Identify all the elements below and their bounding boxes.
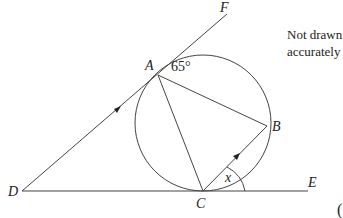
note-line-1: Not drawn (287, 26, 342, 43)
not-drawn-accurately-note: Not drawn accurately (287, 26, 342, 60)
label-D: D (7, 184, 18, 199)
note-line-2: accurately (287, 43, 342, 60)
trailing-parenthesis: ( (337, 201, 342, 218)
label-C: C (196, 196, 206, 211)
angle-label-x: x (224, 170, 232, 185)
label-A: A (144, 58, 154, 73)
label-B: B (272, 119, 281, 134)
chord-CB (203, 126, 267, 191)
label-F: F (219, 0, 229, 15)
angle-label-65: 65° (171, 59, 191, 74)
parallel-arrow-DA-icon (114, 106, 121, 113)
label-E: E (307, 175, 317, 190)
line-DF-tangent (22, 14, 227, 191)
